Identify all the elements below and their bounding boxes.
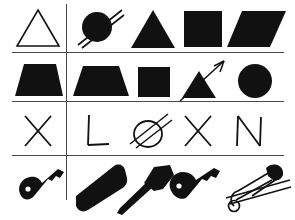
column-divider-vertical (66, 4, 67, 200)
filled-square-icon (182, 10, 224, 48)
outline-triangle-icon (14, 6, 62, 50)
cell-letter-o-struck (124, 108, 176, 154)
drawing-test-sheet: Triangle (outline) Circle (filled) with … (0, 0, 295, 220)
cell-filled-trapezoid-wide (71, 64, 131, 98)
cell-letter-l (82, 112, 114, 150)
cell-letter-n (232, 112, 268, 150)
letter-o-struck-icon (124, 108, 176, 154)
cell-safety-pin-outline (222, 158, 292, 216)
cell-outline-triangle (14, 6, 62, 50)
letter-l-icon (82, 112, 114, 150)
cell-filled-circle-struck (72, 4, 126, 52)
cell-key-silhouette-left (14, 162, 66, 214)
filled-trapezoid-wide-icon (71, 64, 131, 98)
row-divider-3 (12, 155, 284, 156)
filled-triangle-icon (128, 8, 178, 50)
filled-circle-icon (236, 63, 274, 99)
cell-filled-square-small (137, 66, 171, 98)
key-silhouette-icon (166, 162, 222, 212)
cell-filled-triangle (128, 8, 178, 50)
filled-triangle-arrow-icon (172, 57, 230, 101)
cell-filled-triangle-arrow (172, 57, 230, 101)
cell-filled-square (182, 10, 224, 48)
filled-trapezoid-left-icon (14, 62, 64, 98)
safety-pin-outline-icon (222, 158, 292, 216)
cell-letter-x (180, 112, 216, 150)
filled-parallelogram-icon (226, 10, 288, 48)
cell-filled-trapezoid-left (14, 62, 64, 98)
filled-square-small-icon (137, 66, 171, 98)
cell-filled-parallelogram (226, 10, 288, 48)
row-divider-1 (12, 52, 284, 53)
letter-n-icon (232, 112, 268, 150)
row-divider-2 (12, 101, 284, 102)
letter-x-icon (180, 112, 216, 150)
filled-circle-struck-icon (72, 4, 126, 52)
letter-x-left-icon (20, 112, 56, 150)
key-silhouette-left-icon (14, 162, 66, 214)
cell-filled-circle (236, 63, 274, 99)
cell-letter-x-left (20, 112, 56, 150)
cell-key-silhouette (166, 162, 222, 212)
